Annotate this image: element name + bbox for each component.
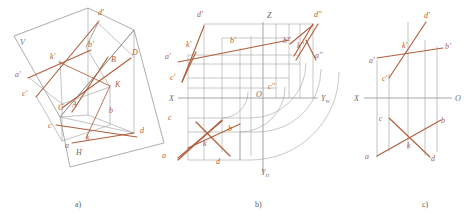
label-b-a-dprime: a'' xyxy=(315,51,323,60)
label-c-k: k xyxy=(407,141,411,150)
label-c-k-prime: k' xyxy=(402,41,408,50)
label-c-a: a xyxy=(365,152,369,161)
label-c-origin: O xyxy=(455,94,461,103)
label-a-D: D xyxy=(131,48,138,57)
panel-c-labels: X O d' k' b' a' c' c b k a d xyxy=(353,11,461,163)
label-a-k: k xyxy=(86,133,90,142)
label-b-b: b xyxy=(228,124,232,133)
technical-drawing-figure: V H d' b' D B k' a' K c' C A b c d k a xyxy=(0,0,476,220)
label-b-b-dprime: b'' xyxy=(283,36,291,45)
label-c-a-prime: a' xyxy=(369,56,375,65)
label-b-a: a xyxy=(162,151,166,160)
caption-b: b) xyxy=(255,200,262,209)
panel-c-line-ab-accent xyxy=(377,48,443,156)
label-a-b-prime: b' xyxy=(88,40,94,49)
label-b-c: c xyxy=(168,113,172,122)
label-b-axis-yw: YW xyxy=(321,94,330,104)
label-b-k: k xyxy=(203,139,207,148)
caption-c: c) xyxy=(422,200,429,209)
label-b-d-dprime: d'' xyxy=(314,10,322,19)
label-a-d: d xyxy=(140,126,145,135)
label-c-c: c xyxy=(379,114,383,123)
panel-b-line-cd-accent xyxy=(178,24,313,160)
label-b-d: d xyxy=(216,157,221,166)
label-b-k-dprime: k'' xyxy=(297,41,304,50)
label-b-d-prime: d' xyxy=(197,10,203,19)
panel-c-line-cd-accent xyxy=(389,22,430,157)
descriptive-geometry-svg: V H d' b' D B k' a' K c' C A b c d k a xyxy=(0,0,476,220)
panel-b-construction-lines xyxy=(188,24,339,160)
label-a-c-prime: c' xyxy=(22,89,28,98)
label-b-origin: O xyxy=(256,90,262,99)
label-a-k-prime: k' xyxy=(50,52,56,61)
panel-b-labels: Z X O YW YH d' d'' b' b'' k' k'' a' a'' … xyxy=(162,10,330,178)
label-b-axis-yh: YH xyxy=(261,168,269,178)
line-cd-accent xyxy=(36,21,137,137)
label-c-d-prime: d' xyxy=(424,11,430,20)
label-a-C: C xyxy=(58,103,64,112)
label-a-a-prime: a' xyxy=(15,70,21,79)
projection-box-lines xyxy=(28,8,134,141)
label-plane-v: V xyxy=(20,38,26,47)
label-b-k-prime: k' xyxy=(186,40,192,49)
label-c-b-prime: b' xyxy=(445,42,451,51)
panel-a-group: V H d' b' D B k' a' K c' C A b c d k a xyxy=(14,8,164,167)
label-a-b: b xyxy=(109,106,113,115)
label-b-a-prime: a' xyxy=(165,52,171,61)
label-c-b: b xyxy=(441,116,445,125)
label-a-A: A xyxy=(71,100,77,109)
label-c-c-prime: c' xyxy=(382,74,388,83)
figure-captions: a) b) c) xyxy=(75,200,429,209)
caption-a: a) xyxy=(75,200,82,209)
label-b-c-prime: c' xyxy=(170,73,176,82)
label-a-a: a xyxy=(65,141,69,150)
label-a-d-prime: d' xyxy=(98,8,104,17)
panel-b-group: Z X O YW YH d' d'' b' b'' k' k'' a' a'' … xyxy=(162,10,339,178)
label-b-axis-z: Z xyxy=(267,11,272,20)
label-c-axis-x: X xyxy=(353,94,360,103)
label-a-c: c xyxy=(48,121,52,130)
label-c-d: d xyxy=(431,154,436,163)
label-b-c-dprime: c'' xyxy=(268,82,275,91)
label-a-K: K xyxy=(114,80,121,89)
label-a-B: B xyxy=(111,55,116,64)
label-plane-h: H xyxy=(75,148,83,157)
label-b-b-prime: b' xyxy=(230,36,236,45)
label-b-axis-x: X xyxy=(168,94,175,103)
panel-c-group: X O d' k' b' a' c' c b k a d xyxy=(353,11,461,163)
